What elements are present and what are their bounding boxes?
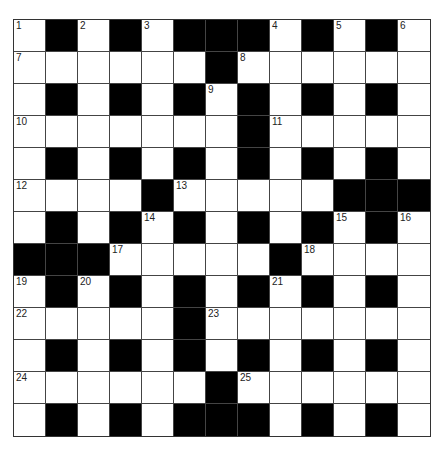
- letter-cell[interactable]: 25: [238, 372, 270, 404]
- letter-cell[interactable]: [398, 340, 430, 372]
- letter-cell[interactable]: [142, 84, 174, 116]
- letter-cell[interactable]: [398, 404, 430, 436]
- letter-cell[interactable]: [334, 244, 366, 276]
- letter-cell[interactable]: [14, 404, 46, 436]
- letter-cell[interactable]: [78, 180, 110, 212]
- letter-cell[interactable]: 23: [206, 308, 238, 340]
- letter-cell[interactable]: 20: [78, 276, 110, 308]
- letter-cell[interactable]: [270, 212, 302, 244]
- letter-cell[interactable]: 14: [142, 212, 174, 244]
- letter-cell[interactable]: [398, 244, 430, 276]
- letter-cell[interactable]: [334, 148, 366, 180]
- letter-cell[interactable]: [206, 148, 238, 180]
- letter-cell[interactable]: [366, 308, 398, 340]
- letter-cell[interactable]: [270, 340, 302, 372]
- letter-cell[interactable]: [334, 372, 366, 404]
- letter-cell[interactable]: [110, 52, 142, 84]
- letter-cell[interactable]: [270, 84, 302, 116]
- letter-cell[interactable]: [334, 276, 366, 308]
- letter-cell[interactable]: [110, 372, 142, 404]
- letter-cell[interactable]: [206, 244, 238, 276]
- letter-cell[interactable]: [270, 372, 302, 404]
- letter-cell[interactable]: [78, 52, 110, 84]
- letter-cell[interactable]: [238, 308, 270, 340]
- letter-cell[interactable]: [46, 52, 78, 84]
- letter-cell[interactable]: 16: [398, 212, 430, 244]
- letter-cell[interactable]: [142, 404, 174, 436]
- letter-cell[interactable]: [366, 116, 398, 148]
- letter-cell[interactable]: [206, 116, 238, 148]
- letter-cell[interactable]: [302, 52, 334, 84]
- letter-cell[interactable]: [46, 180, 78, 212]
- letter-cell[interactable]: [78, 148, 110, 180]
- letter-cell[interactable]: [46, 308, 78, 340]
- letter-cell[interactable]: [174, 244, 206, 276]
- letter-cell[interactable]: [302, 116, 334, 148]
- letter-cell[interactable]: [398, 276, 430, 308]
- letter-cell[interactable]: [142, 340, 174, 372]
- letter-cell[interactable]: 13: [174, 180, 206, 212]
- letter-cell[interactable]: 6: [398, 20, 430, 52]
- letter-cell[interactable]: [270, 52, 302, 84]
- letter-cell[interactable]: [270, 148, 302, 180]
- letter-cell[interactable]: [142, 244, 174, 276]
- letter-cell[interactable]: 17: [110, 244, 142, 276]
- letter-cell[interactable]: [78, 308, 110, 340]
- letter-cell[interactable]: [110, 116, 142, 148]
- letter-cell[interactable]: 10: [14, 116, 46, 148]
- letter-cell[interactable]: 3: [142, 20, 174, 52]
- letter-cell[interactable]: [398, 308, 430, 340]
- letter-cell[interactable]: [110, 308, 142, 340]
- letter-cell[interactable]: [14, 340, 46, 372]
- letter-cell[interactable]: [142, 372, 174, 404]
- letter-cell[interactable]: [270, 308, 302, 340]
- letter-cell[interactable]: 11: [270, 116, 302, 148]
- letter-cell[interactable]: [142, 148, 174, 180]
- letter-cell[interactable]: [334, 340, 366, 372]
- letter-cell[interactable]: [78, 84, 110, 116]
- letter-cell[interactable]: [174, 372, 206, 404]
- letter-cell[interactable]: [398, 52, 430, 84]
- letter-cell[interactable]: 18: [302, 244, 334, 276]
- letter-cell[interactable]: [206, 212, 238, 244]
- letter-cell[interactable]: 12: [14, 180, 46, 212]
- letter-cell[interactable]: [206, 180, 238, 212]
- letter-cell[interactable]: [174, 116, 206, 148]
- letter-cell[interactable]: 8: [238, 52, 270, 84]
- letter-cell[interactable]: [78, 404, 110, 436]
- letter-cell[interactable]: 4: [270, 20, 302, 52]
- letter-cell[interactable]: [398, 84, 430, 116]
- letter-cell[interactable]: [46, 116, 78, 148]
- letter-cell[interactable]: [238, 180, 270, 212]
- letter-cell[interactable]: 15: [334, 212, 366, 244]
- letter-cell[interactable]: [206, 276, 238, 308]
- letter-cell[interactable]: 9: [206, 84, 238, 116]
- letter-cell[interactable]: [78, 116, 110, 148]
- letter-cell[interactable]: 19: [14, 276, 46, 308]
- letter-cell[interactable]: [270, 404, 302, 436]
- letter-cell[interactable]: [366, 52, 398, 84]
- letter-cell[interactable]: [398, 116, 430, 148]
- letter-cell[interactable]: 7: [14, 52, 46, 84]
- letter-cell[interactable]: 5: [334, 20, 366, 52]
- letter-cell[interactable]: [238, 244, 270, 276]
- letter-cell[interactable]: [366, 372, 398, 404]
- letter-cell[interactable]: [110, 180, 142, 212]
- letter-cell[interactable]: [78, 212, 110, 244]
- letter-cell[interactable]: 22: [14, 308, 46, 340]
- letter-cell[interactable]: [334, 116, 366, 148]
- letter-cell[interactable]: [206, 340, 238, 372]
- letter-cell[interactable]: [398, 372, 430, 404]
- letter-cell[interactable]: 1: [14, 20, 46, 52]
- letter-cell[interactable]: 21: [270, 276, 302, 308]
- letter-cell[interactable]: [14, 84, 46, 116]
- letter-cell[interactable]: [142, 276, 174, 308]
- letter-cell[interactable]: [46, 372, 78, 404]
- letter-cell[interactable]: [270, 180, 302, 212]
- letter-cell[interactable]: [398, 148, 430, 180]
- letter-cell[interactable]: [14, 148, 46, 180]
- letter-cell[interactable]: [78, 340, 110, 372]
- letter-cell[interactable]: [142, 308, 174, 340]
- letter-cell[interactable]: [334, 308, 366, 340]
- letter-cell[interactable]: [302, 180, 334, 212]
